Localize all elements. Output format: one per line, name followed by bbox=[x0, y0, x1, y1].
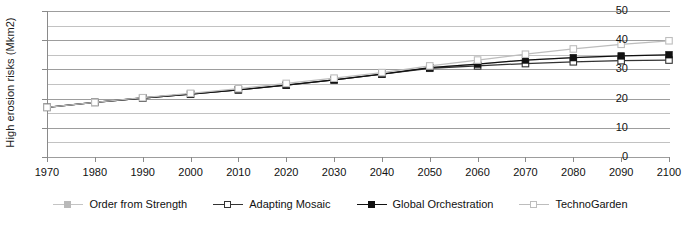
x-axis-tick-label: 2050 bbox=[407, 166, 453, 178]
data-point-marker bbox=[139, 94, 146, 101]
series-0 bbox=[44, 52, 673, 111]
legend-swatch-icon bbox=[53, 199, 83, 210]
legend-swatch-icon bbox=[519, 199, 549, 210]
x-axis-tick-label: 1990 bbox=[120, 166, 166, 178]
series-3 bbox=[44, 38, 673, 111]
x-axis-tick-mark bbox=[191, 157, 192, 162]
data-point-marker bbox=[666, 52, 673, 59]
data-point-marker bbox=[522, 51, 529, 58]
legend-item-label: Global Orchestration bbox=[391, 198, 494, 210]
data-point-marker bbox=[474, 57, 481, 64]
series-layer bbox=[47, 11, 669, 157]
legend-marker bbox=[368, 201, 375, 208]
x-axis-tick-label: 2030 bbox=[311, 166, 357, 178]
y-axis-tick-mark bbox=[42, 128, 47, 129]
data-point-marker bbox=[379, 69, 386, 76]
x-axis-tick-label: 2010 bbox=[215, 166, 261, 178]
x-axis-tick-mark bbox=[478, 157, 479, 162]
x-axis-tick-label: 2020 bbox=[263, 166, 309, 178]
y-axis-title-label: High erosion risks (Mkm2) bbox=[5, 17, 16, 147]
data-point-marker bbox=[92, 99, 99, 106]
data-point-marker bbox=[570, 54, 577, 61]
y-axis-title: High erosion risks (Mkm2) bbox=[0, 0, 20, 165]
legend-item[interactable]: TechnoGarden bbox=[519, 198, 627, 210]
data-point-marker bbox=[187, 90, 194, 97]
y-axis-tick-label: 20 bbox=[588, 93, 628, 104]
x-axis-tick-label: 2100 bbox=[646, 166, 686, 178]
x-axis-tick-label: 2080 bbox=[550, 166, 596, 178]
x-axis-tick-label: 1980 bbox=[72, 166, 118, 178]
x-axis-tick-label: 2040 bbox=[359, 166, 405, 178]
legend-item-label: Adapting Mosaic bbox=[247, 198, 330, 210]
data-point-marker bbox=[618, 53, 625, 60]
x-axis-tick-mark bbox=[286, 157, 287, 162]
legend-item[interactable]: Order from Strength bbox=[53, 198, 187, 210]
legend-swatch-icon bbox=[357, 199, 387, 210]
legend-item[interactable]: Global Orchestration bbox=[357, 198, 494, 210]
x-axis-tick-mark bbox=[238, 157, 239, 162]
x-axis-tick-label: 2090 bbox=[598, 166, 644, 178]
legend-marker bbox=[64, 201, 71, 208]
data-point-marker bbox=[44, 104, 51, 111]
y-axis-tick-mark bbox=[42, 99, 47, 100]
x-axis-tick-mark bbox=[334, 157, 335, 162]
series-1 bbox=[44, 57, 673, 111]
series-2 bbox=[44, 52, 673, 111]
y-axis-tick-label: 40 bbox=[588, 34, 628, 45]
y-axis-tick-label: 50 bbox=[588, 5, 628, 16]
gridline-major bbox=[48, 157, 670, 158]
legend-item-label: Order from Strength bbox=[87, 198, 187, 210]
x-axis-tick-mark bbox=[669, 157, 670, 162]
legend-item[interactable]: Adapting Mosaic bbox=[213, 198, 330, 210]
y-axis-tick-label: 30 bbox=[588, 63, 628, 74]
legend-marker bbox=[224, 201, 231, 208]
data-point-marker bbox=[283, 80, 290, 87]
chart-legend: Order from StrengthAdapting MosaicGlobal… bbox=[0, 193, 681, 215]
y-axis-tick-mark bbox=[42, 11, 47, 12]
y-axis-tick-mark bbox=[42, 69, 47, 70]
x-axis-tick-label: 1970 bbox=[24, 166, 70, 178]
data-point-marker bbox=[427, 63, 434, 70]
x-axis-tick-mark bbox=[95, 157, 96, 162]
x-axis-tick-mark bbox=[573, 157, 574, 162]
x-axis-tick-mark bbox=[525, 157, 526, 162]
y-axis-tick-mark bbox=[42, 40, 47, 41]
x-axis-tick-mark bbox=[621, 157, 622, 162]
x-axis-tick-mark bbox=[430, 157, 431, 162]
x-axis-tick-mark bbox=[143, 157, 144, 162]
x-axis-tick-mark bbox=[382, 157, 383, 162]
data-point-marker bbox=[666, 38, 673, 45]
x-axis-tick-label: 2060 bbox=[455, 166, 501, 178]
x-axis-tick-label: 2070 bbox=[502, 166, 548, 178]
y-axis-tick-label: 10 bbox=[588, 122, 628, 133]
data-point-marker bbox=[331, 75, 338, 82]
data-point-marker bbox=[235, 85, 242, 92]
legend-swatch-icon bbox=[213, 199, 243, 210]
legend-item-label: TechnoGarden bbox=[553, 198, 627, 210]
legend-marker bbox=[530, 201, 537, 208]
data-point-marker bbox=[570, 46, 577, 53]
x-axis-tick-label: 2000 bbox=[168, 166, 214, 178]
x-axis-tick-mark bbox=[47, 157, 48, 162]
